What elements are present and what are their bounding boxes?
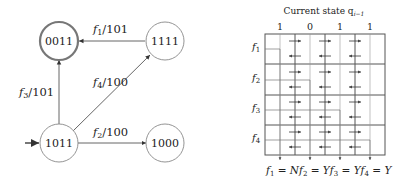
grid-footer: f1 = Nf2 = Yf3 = Yf4 = Y — [265, 164, 392, 178]
row-label-f3: f3 — [251, 102, 260, 115]
state-1011: 1011 — [40, 124, 78, 162]
state-label: 1000 — [151, 137, 179, 150]
state-label: 1011 — [45, 137, 73, 150]
column-bit-3: 1 — [337, 21, 343, 32]
row-label-f4: f4 — [251, 132, 261, 145]
state-1000: 1000 — [146, 124, 184, 162]
column-bit-4: 1 — [367, 21, 373, 32]
edge-label-f4: f4/100 — [92, 75, 128, 90]
path-f2 — [265, 80, 310, 160]
grid-title: Current state qi−1 — [284, 6, 365, 17]
figure-canvas: 0011 1111 1011 1000 f1/101 f3/101 f4/100… — [0, 0, 403, 183]
path-f3 — [265, 110, 340, 160]
current-state-grid: Current state qi−1 1 0 1 1 — [251, 6, 392, 178]
row-label-f1: f1 — [251, 41, 260, 54]
column-bit-1: 1 — [277, 21, 283, 32]
edge-label-f1: f1/101 — [92, 22, 128, 37]
state-1111: 1111 — [146, 22, 184, 60]
state-label: 1111 — [151, 35, 179, 48]
edge-1011-to-1111 — [73, 55, 150, 131]
edge-label-f2: f2/100 — [92, 125, 128, 140]
state-0011: 0011 — [40, 22, 78, 60]
path-f1 — [265, 49, 280, 160]
edge-label-f3: f3/101 — [18, 85, 54, 100]
path-f4 — [265, 140, 370, 160]
column-bit-2: 0 — [307, 21, 313, 32]
state-diagram: 0011 1111 1011 1000 f1/101 f3/101 f4/100… — [18, 22, 184, 162]
row-label-f2: f2 — [251, 72, 260, 85]
state-label: 0011 — [45, 35, 73, 48]
